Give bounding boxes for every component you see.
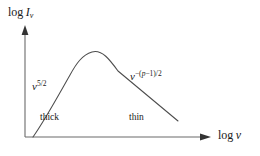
- thick-regime-label: thick: [40, 113, 59, 123]
- rising-power-law-exponent: 5/2: [37, 79, 47, 88]
- figure-container: log Iν log ν ν5/2 ν−(p−1)/2 thick thin: [0, 0, 260, 156]
- thin-regime-label: thin: [129, 113, 144, 123]
- x-axis-arrowhead: [200, 133, 211, 140]
- falling-power-law-exponent: −(p−1)/2: [135, 69, 162, 78]
- y-axis-label-subscript: ν: [30, 11, 34, 20]
- y-axis-label: log Iν: [8, 6, 33, 20]
- y-axis-arrowhead: [22, 25, 29, 35]
- axes-group: [22, 25, 211, 141]
- x-axis-label: log ν: [218, 129, 241, 141]
- spectrum-curve: [33, 51, 178, 137]
- spectrum-curve-group: [33, 51, 178, 137]
- x-axis-label-symbol: ν: [236, 128, 241, 142]
- falling-exponent-suffix: −1)/2: [145, 69, 161, 78]
- x-axis-label-prefix: log: [218, 128, 233, 142]
- falling-power-law-label: ν−(p−1)/2: [130, 70, 162, 82]
- falling-exponent-prefix: −(: [135, 69, 142, 78]
- rising-power-law-label: ν5/2: [32, 80, 46, 92]
- y-axis-label-prefix: log: [8, 5, 23, 19]
